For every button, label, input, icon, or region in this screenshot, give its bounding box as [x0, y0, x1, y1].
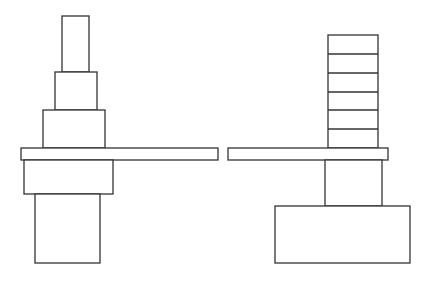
right-column [325, 160, 382, 206]
left-plank [21, 148, 218, 160]
left-base-block [35, 194, 100, 263]
diagram-canvas [0, 0, 435, 285]
left-top-block [62, 16, 89, 72]
right-base-block [275, 206, 410, 263]
right-plank [228, 148, 388, 160]
right-figure [228, 35, 410, 263]
left-figure [21, 16, 218, 263]
left-under-plank-block [24, 160, 113, 194]
left-lower-block [43, 110, 105, 148]
left-middle-block [55, 72, 97, 110]
